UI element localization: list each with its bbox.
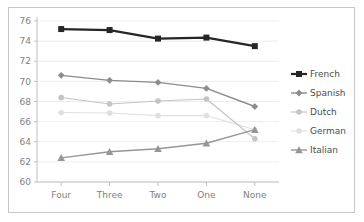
legend-label-german: German xyxy=(310,126,346,136)
data-point-circle xyxy=(155,98,161,104)
series-spanish xyxy=(58,72,258,110)
y-tick-label: 64 xyxy=(20,137,32,147)
legend-label-spanish: Spanish xyxy=(310,88,346,98)
line-chart: 606264666870727476FourThreeTwoOneNoneFre… xyxy=(0,0,364,222)
data-point-circle xyxy=(296,128,302,134)
data-point-diamond xyxy=(251,103,258,110)
data-point-circle xyxy=(107,101,113,107)
data-point-square xyxy=(155,36,161,42)
y-tick-label: 74 xyxy=(20,36,32,46)
legend-label-dutch: Dutch xyxy=(310,107,337,117)
series-french xyxy=(58,26,258,49)
data-point-square xyxy=(203,35,209,41)
y-tick-label: 72 xyxy=(20,56,31,66)
y-tick-label: 62 xyxy=(20,157,31,167)
plot-container: 606264666870727476FourThreeTwoOneNoneFre… xyxy=(0,0,364,222)
data-point-circle xyxy=(296,109,302,115)
data-point-circle xyxy=(204,96,210,102)
y-tick-label: 76 xyxy=(20,16,32,26)
data-point-diamond xyxy=(203,85,210,92)
chart-legend: FrenchSpanishDutchGermanItalian xyxy=(291,69,346,155)
x-tick-label: Three xyxy=(96,190,123,200)
series-italian xyxy=(57,126,258,161)
data-point-circle xyxy=(58,110,64,116)
y-tick-label: 66 xyxy=(20,117,32,127)
y-tick-label: 70 xyxy=(20,77,32,87)
data-point-square xyxy=(296,71,302,77)
y-tick-label: 68 xyxy=(20,97,32,107)
data-point-circle xyxy=(252,136,258,142)
x-tick-label: Two xyxy=(149,190,167,200)
x-tick-label: One xyxy=(197,190,216,200)
chart-figure: 606264666870727476FourThreeTwoOneNoneFre… xyxy=(0,0,364,222)
data-point-circle xyxy=(107,110,113,116)
x-tick-label: Four xyxy=(51,190,71,200)
y-tick-label: 60 xyxy=(20,177,32,187)
series-german xyxy=(58,110,257,133)
legend-label-italian: Italian xyxy=(310,145,338,155)
legend-label-french: French xyxy=(310,69,340,79)
data-point-diamond xyxy=(58,72,65,79)
data-point-diamond xyxy=(155,79,162,86)
series-line xyxy=(61,130,255,158)
x-tick-label: None xyxy=(243,190,267,200)
data-point-square xyxy=(252,43,258,49)
data-point-square xyxy=(58,26,64,32)
data-point-circle xyxy=(155,113,161,119)
data-point-square xyxy=(107,27,113,33)
data-point-circle xyxy=(58,95,64,101)
data-point-diamond xyxy=(296,90,303,97)
data-point-circle xyxy=(204,113,210,119)
data-point-diamond xyxy=(106,77,113,84)
